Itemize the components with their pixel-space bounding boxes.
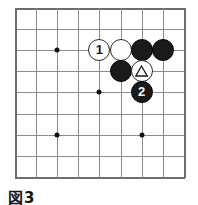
figure-container: 12 図3 (0, 0, 198, 205)
figure-caption: 図3 (8, 186, 35, 205)
star-point-lower-right (139, 132, 144, 137)
grid-line-vertical (78, 8, 79, 178)
star-point-lower-left (55, 132, 60, 137)
star-point-center (97, 90, 102, 95)
go-board[interactable]: 12 (15, 8, 185, 178)
grid-line-vertical (15, 8, 17, 178)
grid-line-vertical (36, 8, 37, 178)
star-point-upper-left (55, 48, 60, 53)
stone-move-number: 2 (138, 85, 145, 98)
white-stone-1[interactable]: 1 (88, 39, 110, 61)
triangle-mark-icon (135, 65, 148, 77)
stone-move-number: 1 (96, 43, 103, 56)
black-stone-plain[interactable] (131, 39, 153, 61)
black-stone-plain[interactable] (110, 60, 132, 82)
grid-line-vertical (163, 8, 164, 178)
grid-line-vertical (57, 8, 58, 178)
white-stone-triangle-marked[interactable] (131, 60, 153, 82)
white-stone-plain[interactable] (110, 39, 132, 61)
grid-line-vertical (121, 8, 122, 178)
grid-line-vertical (184, 8, 186, 178)
black-stone-plain[interactable] (152, 39, 174, 61)
black-stone-2[interactable]: 2 (131, 81, 153, 103)
